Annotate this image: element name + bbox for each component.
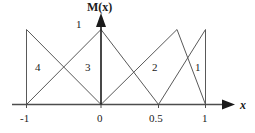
membership-function-figure: M(x) 1 x -1 0 0.5 1 4 3 2 1 (0, 0, 255, 133)
x-axis-arrowhead (222, 100, 235, 110)
x-axis-title: x (240, 99, 246, 111)
y-axis-arrowhead (96, 13, 106, 27)
membership-triangles (27, 30, 206, 105)
y-axis-title-text: M(x) (87, 0, 112, 14)
x-tick-label-1: 1 (202, 113, 208, 124)
region-label-4: 4 (35, 62, 41, 73)
region-label-3: 3 (85, 62, 91, 73)
y-axis-max-label: 1 (76, 19, 82, 30)
y-axis-title: M(x) (87, 1, 112, 13)
x-tick-label-0: 0 (97, 113, 103, 124)
x-tick-label-minus-1: -1 (20, 113, 29, 124)
x-tick-label-0point5: 0.5 (149, 113, 163, 124)
region-label-1: 1 (195, 62, 201, 73)
line-2-falling (177, 30, 206, 105)
region-label-2: 2 (152, 62, 158, 73)
line-3-falling (101, 30, 159, 105)
